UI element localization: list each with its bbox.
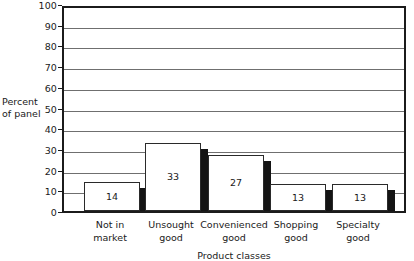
gridline bbox=[64, 90, 404, 91]
y-axis-tick-label: 50 bbox=[5, 105, 57, 115]
y-axis-tick-label: 100 bbox=[5, 1, 57, 11]
bar-chart-figure: Percent of panel 0102030405060708090100 … bbox=[0, 0, 414, 261]
y-axis-tick-label: 20 bbox=[5, 167, 57, 177]
x-axis-category-label: Specialtygood bbox=[320, 219, 396, 244]
bar-value-label: 13 bbox=[271, 193, 325, 203]
bar-body: 13 bbox=[332, 184, 388, 211]
gridline bbox=[64, 48, 404, 49]
gridline bbox=[64, 131, 404, 132]
bar-shadow bbox=[201, 149, 208, 211]
y-axis-tick-label: 30 bbox=[5, 146, 57, 156]
gridline bbox=[64, 111, 404, 112]
bar: 14 bbox=[84, 182, 147, 211]
y-axis-tick-label: 70 bbox=[5, 63, 57, 73]
bar-body: 14 bbox=[84, 182, 140, 211]
bar: 27 bbox=[208, 155, 271, 211]
bar: 33 bbox=[145, 143, 208, 211]
y-axis-tick-label: 0 bbox=[5, 208, 57, 218]
bar-value-label: 33 bbox=[146, 172, 200, 182]
bar-value-label: 14 bbox=[85, 192, 139, 202]
x-axis-category-label-line: Specialty bbox=[320, 219, 396, 232]
gridline bbox=[64, 152, 404, 153]
bar: 13 bbox=[332, 184, 395, 211]
y-axis-tick-label: 90 bbox=[5, 22, 57, 32]
bar-body: 13 bbox=[270, 184, 326, 211]
y-axis-tick-label: 40 bbox=[5, 125, 57, 135]
plot-area: 1433271313 bbox=[62, 6, 406, 213]
gridline bbox=[64, 28, 404, 29]
bar: 13 bbox=[270, 184, 333, 211]
x-axis-category-label-line: good bbox=[320, 232, 396, 245]
y-axis-tick-label: 80 bbox=[5, 42, 57, 52]
bar-value-label: 27 bbox=[209, 178, 263, 188]
gridline bbox=[64, 69, 404, 70]
y-axis-tick-label: 10 bbox=[5, 187, 57, 197]
bar-body: 33 bbox=[145, 143, 201, 211]
bar-shadow bbox=[388, 190, 395, 211]
x-axis-title: Product classes bbox=[62, 250, 406, 261]
bar-body: 27 bbox=[208, 155, 264, 211]
bar-value-label: 13 bbox=[333, 193, 387, 203]
y-axis-tick-label: 60 bbox=[5, 84, 57, 94]
